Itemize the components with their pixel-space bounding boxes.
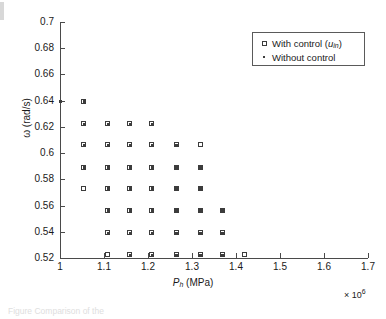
data-point-without-control [175, 254, 178, 257]
x-axis-title-unit: (MPa) [183, 277, 213, 288]
data-point-with-control [105, 252, 110, 257]
x-tick-label-1.3: 1.3 [172, 262, 212, 272]
x-axis-line [60, 258, 368, 259]
data-point-without-control [175, 187, 178, 190]
data-point-without-control [151, 187, 154, 190]
y-tick-0.58 [60, 179, 65, 180]
y-tick-label-0.66: 0.66 [8, 69, 54, 79]
data-point-without-control [129, 144, 132, 147]
data-point-without-control [175, 144, 178, 147]
data-point-without-control [221, 254, 224, 257]
x-axis-exponent: × 106 [344, 288, 366, 300]
data-point-without-control [83, 100, 86, 103]
x-tick-1 [60, 253, 61, 258]
y-tick-label-0.58: 0.58 [8, 174, 54, 184]
data-point-without-control [107, 123, 110, 126]
legend-label-with-control: With control (uin) [271, 38, 342, 49]
y-tick-label-0.64: 0.64 [8, 96, 54, 106]
data-point-without-control [199, 209, 202, 212]
data-point-without-control [129, 166, 132, 169]
data-point-without-control [129, 254, 132, 257]
x-tick-label-1.1: 1.1 [84, 262, 124, 272]
x-tick-label-1.7: 1.7 [348, 262, 386, 272]
x-tick-label-1.5: 1.5 [260, 262, 300, 272]
y-tick-0.68 [60, 48, 65, 49]
data-point-with-control [81, 186, 86, 191]
figure-container: ω (rad/s) Ph (MPa) × 106 0.70.680.660.64… [0, 0, 386, 319]
y-tick-label-0.6: 0.6 [8, 148, 54, 158]
y-tick-0.66 [60, 74, 65, 75]
data-point-without-control [199, 232, 202, 235]
data-point-without-control [107, 187, 110, 190]
figure-caption: Figure Comparison of the [8, 306, 104, 316]
x-axis-exponent-base: × 10 [344, 290, 362, 300]
data-point-without-control [129, 232, 132, 235]
dot-icon [257, 56, 271, 59]
legend: With control (uin) Without control [252, 32, 365, 66]
data-point-without-control [175, 166, 178, 169]
y-tick-0.6 [60, 153, 65, 154]
legend-label-without-control: Without control [271, 52, 335, 63]
y-tick-label-0.62: 0.62 [8, 122, 54, 132]
data-point-without-control [221, 232, 224, 235]
data-point-without-control [83, 144, 86, 147]
legend-entry-without-control: Without control [257, 50, 360, 64]
x-tick-1.5 [280, 253, 281, 258]
data-point-without-control [151, 166, 154, 169]
data-point-without-control [175, 209, 178, 212]
y-tick-label-0.56: 0.56 [8, 201, 54, 211]
data-point-without-control [151, 144, 154, 147]
open-square-icon [257, 41, 271, 46]
data-point-without-control [107, 232, 110, 235]
x-tick-label-1.4: 1.4 [216, 262, 256, 272]
x-axis-title: Ph (MPa) [0, 277, 386, 288]
page-edge-artifact [0, 2, 4, 20]
data-point-without-control [199, 254, 202, 257]
data-point-without-control [129, 123, 132, 126]
data-point-without-control [107, 144, 110, 147]
data-point-without-control [199, 166, 202, 169]
x-tick-1.6 [324, 253, 325, 258]
data-point-with-control [198, 142, 203, 147]
data-point-without-control [199, 187, 202, 190]
data-point-with-control [242, 252, 247, 257]
legend-entry-with-control: With control (uin) [257, 36, 360, 50]
data-point-without-control [83, 123, 86, 126]
y-tick-label-0.54: 0.54 [8, 227, 54, 237]
y-tick-0.7 [60, 22, 65, 23]
x-tick-1.4 [236, 253, 237, 258]
x-tick-label-1.2: 1.2 [128, 262, 168, 272]
y-axis-line [60, 22, 61, 258]
y-tick-0.56 [60, 206, 65, 207]
x-tick-label-1.6: 1.6 [304, 262, 344, 272]
y-tick-label-0.7: 0.7 [8, 17, 54, 27]
data-point-without-control [151, 123, 154, 126]
x-tick-label-1: 1 [40, 262, 80, 272]
data-point-without-control [107, 166, 110, 169]
x-axis-exponent-power: 6 [362, 288, 366, 295]
data-point-without-control [151, 209, 154, 212]
data-point-without-control [83, 166, 86, 169]
data-point-without-control [129, 209, 132, 212]
y-tick-0.52 [60, 258, 65, 259]
data-point-without-control [59, 100, 62, 103]
data-point-without-control [129, 187, 132, 190]
data-point-without-control [221, 209, 224, 212]
y-tick-0.62 [60, 127, 65, 128]
data-point-without-control [107, 209, 110, 212]
y-tick-0.54 [60, 232, 65, 233]
data-point-without-control [175, 232, 178, 235]
data-point-without-control [151, 254, 154, 257]
x-tick-1.7 [368, 253, 369, 258]
data-point-without-control [151, 232, 154, 235]
x-tick-1.3 [192, 253, 193, 258]
y-tick-label-0.68: 0.68 [8, 43, 54, 53]
